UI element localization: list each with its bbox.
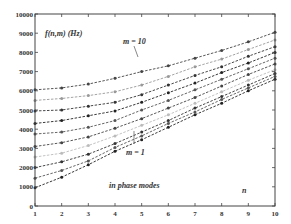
data-point-marker <box>247 79 250 82</box>
data-point-marker <box>87 144 90 147</box>
data-point-marker <box>87 83 90 86</box>
series-line <box>35 58 275 134</box>
x-tick-label: 10 <box>272 210 280 218</box>
series-line <box>35 32 275 90</box>
data-point-marker <box>247 55 250 58</box>
data-point-marker <box>194 110 197 113</box>
x-tick-label: 2 <box>60 210 64 218</box>
data-point-marker <box>167 75 170 78</box>
y-tick-label: 1000 <box>19 183 34 191</box>
data-point-marker <box>140 134 143 137</box>
data-point-marker <box>247 40 250 43</box>
data-point-marker <box>60 169 63 172</box>
x-tick-label: 8 <box>220 210 224 218</box>
data-point-marker <box>114 77 117 80</box>
data-point-marker <box>194 88 197 91</box>
data-point-marker <box>114 109 117 112</box>
y-tick-label: 2000 <box>19 164 34 172</box>
data-point-marker <box>220 90 223 93</box>
data-point-marker <box>114 119 117 122</box>
data-point-marker <box>194 113 197 116</box>
data-point-marker <box>194 102 197 105</box>
series-line <box>35 47 275 111</box>
data-point-marker <box>220 71 223 74</box>
series-m-1 <box>34 78 277 189</box>
data-point-marker <box>247 73 250 76</box>
data-point-marker <box>140 124 143 127</box>
series-m-8 <box>34 45 277 112</box>
y-tick-label: 10000 <box>16 11 34 19</box>
data-point-marker <box>87 163 90 166</box>
data-point-marker <box>60 86 63 89</box>
data-point-marker <box>140 138 143 141</box>
data-point-marker <box>140 109 143 112</box>
x-tick-label: 6 <box>167 210 171 218</box>
data-point-marker <box>247 89 250 92</box>
data-point-marker <box>167 107 170 110</box>
data-point-marker <box>60 176 63 179</box>
x-tick-label: 5 <box>140 210 144 218</box>
data-point-marker <box>167 119 170 122</box>
series-m-10 <box>34 31 277 92</box>
data-point-marker <box>220 58 223 61</box>
data-point-marker <box>140 93 143 96</box>
data-point-marker <box>167 126 170 129</box>
data-point-marker <box>87 153 90 156</box>
series-line <box>35 40 275 100</box>
x-tick-label: 4 <box>113 210 117 218</box>
data-point-marker <box>114 101 117 104</box>
data-point-marker <box>114 127 117 130</box>
data-point-marker <box>247 67 250 70</box>
y-tick-label: 6000 <box>19 87 34 95</box>
data-point-marker <box>60 141 63 144</box>
y-tick-label: 4000 <box>19 126 34 134</box>
data-point-marker <box>220 102 223 105</box>
x-tick-label: 9 <box>247 210 251 218</box>
annotation-m1: m = 1 <box>126 148 145 157</box>
data-point-marker <box>167 91 170 94</box>
x-tick-label: 3 <box>87 210 91 218</box>
y-axis-label: f(n,m) (Hz) <box>45 29 83 38</box>
data-point-marker <box>167 113 170 116</box>
x-tick-label: 1 <box>33 210 37 218</box>
data-point-marker <box>87 105 90 108</box>
data-point-marker <box>247 86 250 89</box>
data-point-marker <box>220 95 223 98</box>
data-point-marker <box>60 119 63 122</box>
annotation-m10: m = 10 <box>123 37 146 46</box>
data-point-marker <box>220 49 223 52</box>
data-point-marker <box>247 61 250 64</box>
series-line <box>35 79 275 187</box>
x-axis-label: n <box>242 186 247 195</box>
data-point-marker <box>87 94 90 97</box>
data-point-marker <box>114 90 117 93</box>
data-point-marker <box>60 160 63 163</box>
series-line <box>35 52 275 123</box>
line-chart: 1234567891001000200030004000500060007000… <box>0 0 291 224</box>
data-point-marker <box>140 101 143 104</box>
data-point-marker <box>220 78 223 81</box>
data-point-marker <box>140 117 143 120</box>
arrow-m10 <box>134 46 138 57</box>
data-point-marker <box>60 131 63 134</box>
data-point-marker <box>167 122 170 125</box>
data-point-marker <box>60 152 63 155</box>
data-point-marker <box>220 85 223 88</box>
data-point-marker <box>140 70 143 73</box>
data-point-marker <box>140 131 143 134</box>
x-tick-label: 7 <box>193 210 197 218</box>
data-point-marker <box>194 65 197 68</box>
data-point-marker <box>87 159 90 162</box>
data-point-marker <box>60 97 63 100</box>
data-point-marker <box>220 65 223 68</box>
plot-frame <box>35 14 275 206</box>
y-tick-label: 8000 <box>19 49 34 57</box>
series-layer <box>34 31 277 190</box>
data-point-marker <box>194 74 197 77</box>
y-tick-label: 0 <box>30 203 34 211</box>
annotation-in-phase-modes: in phase modes <box>109 181 160 190</box>
data-point-marker <box>194 96 197 99</box>
data-point-marker <box>194 57 197 60</box>
series-m-9 <box>34 38 277 101</box>
data-point-marker <box>167 64 170 67</box>
